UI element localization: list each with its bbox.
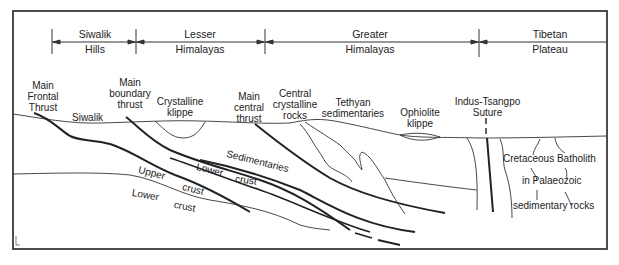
label-line: Indus-Tsangpo	[450, 96, 525, 107]
label-line: Main	[18, 80, 68, 91]
region-line2: Himalayas	[160, 43, 240, 55]
label-tethyan-sedimentaries: Tethyan sedimentaries	[318, 97, 388, 119]
batholith-contacts	[531, 138, 571, 205]
region-line2: Plateau	[510, 43, 590, 55]
central-crystalline-boundary	[300, 124, 352, 182]
label-line: Suture	[450, 107, 525, 118]
label-crystalline-klippe: Crystalline klippe	[150, 96, 210, 118]
corner-mark	[16, 236, 20, 245]
thrust-dashed-continuation	[355, 233, 400, 245]
label-batholith-line2: in Palaeozoic	[522, 175, 581, 186]
label-central-crystalline-rocks: Central crystalline rocks	[265, 88, 325, 121]
label-line: crystalline	[265, 99, 325, 110]
label-line: Central	[265, 88, 325, 99]
label-line: klippe	[150, 107, 210, 118]
tethyan-base	[385, 178, 477, 190]
label-line: Ophiolite	[395, 107, 445, 118]
label-line: Main	[100, 77, 160, 88]
region-line2: Himalayas	[330, 43, 410, 55]
label-line: rocks	[265, 110, 325, 121]
label-line: Frontal	[18, 91, 68, 102]
suture-west-boundary	[467, 138, 477, 210]
label-batholith-line3: sedimentary rocks	[513, 200, 594, 211]
label-line: sedimentaries	[318, 108, 388, 119]
label-line: Crystalline	[150, 96, 210, 107]
upper-lower-crust-boundary	[13, 173, 330, 230]
region-greater-himalayas-label: Greater Himalayas	[330, 28, 410, 55]
region-tibetan-plateau-label: Tibetan Plateau	[510, 28, 590, 55]
region-line1: Lesser	[160, 28, 240, 40]
region-line1: Greater	[330, 28, 410, 40]
region-line2: Hills	[60, 43, 130, 55]
label-siwalik-unit: Siwalik	[72, 112, 103, 123]
label-line: klippe	[395, 118, 445, 129]
region-lesser-himalayas-label: Lesser Himalayas	[160, 28, 240, 55]
indus-tsangpo-suture-fault	[487, 138, 493, 212]
label-main-frontal-thrust: Main Frontal Thrust	[18, 80, 68, 113]
label-line: Thrust	[18, 102, 68, 113]
label-line: Tethyan	[318, 97, 388, 108]
region-line1: Tibetan	[510, 28, 590, 40]
batholith-west-boundary	[500, 139, 512, 218]
region-line1: Siwalik	[60, 28, 130, 40]
region-siwalik-hills-label: Siwalik Hills	[60, 28, 130, 55]
label-batholith-line1: Cretaceous Batholith	[503, 153, 596, 164]
label-indus-tsangpo-suture: Indus-Tsangpo Suture	[450, 96, 525, 118]
crystalline-klippe-outline	[155, 121, 205, 138]
label-ophiolite-klippe: Ophiolite klippe	[395, 107, 445, 129]
